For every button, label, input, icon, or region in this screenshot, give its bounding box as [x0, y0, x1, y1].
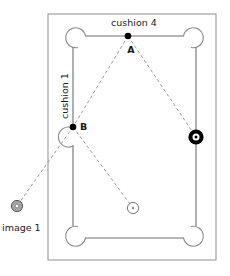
point-b-label: B [80, 121, 87, 132]
path-a-to-b [73, 36, 128, 127]
path-a-to-object-ball [128, 36, 196, 137]
pocket-top-right [184, 28, 204, 48]
object-ball-black-pip [195, 136, 198, 139]
image-ball-pip [15, 204, 19, 208]
point-b-marker [70, 124, 77, 131]
pocket-top-left [66, 28, 86, 48]
pocket-bottom-right [184, 226, 204, 246]
billiard-diagram-root: cushion 4 cushion 1 A B image 1 [0, 0, 230, 276]
point-a-marker [125, 33, 132, 40]
image-ball-label: image 1 [2, 222, 41, 233]
billiard-table-diagram: cushion 4 cushion 1 A B image 1 [0, 0, 230, 276]
point-a-label: A [127, 44, 135, 55]
cushion-top-label: cushion 4 [111, 17, 157, 28]
pocket-bottom-left [66, 226, 86, 246]
cue-ball-pip [132, 207, 134, 209]
path-b-to-cue-ball [73, 127, 133, 208]
cushion-left-label: cushion 1 [59, 73, 70, 119]
path-b-to-image-ball [17, 127, 73, 206]
